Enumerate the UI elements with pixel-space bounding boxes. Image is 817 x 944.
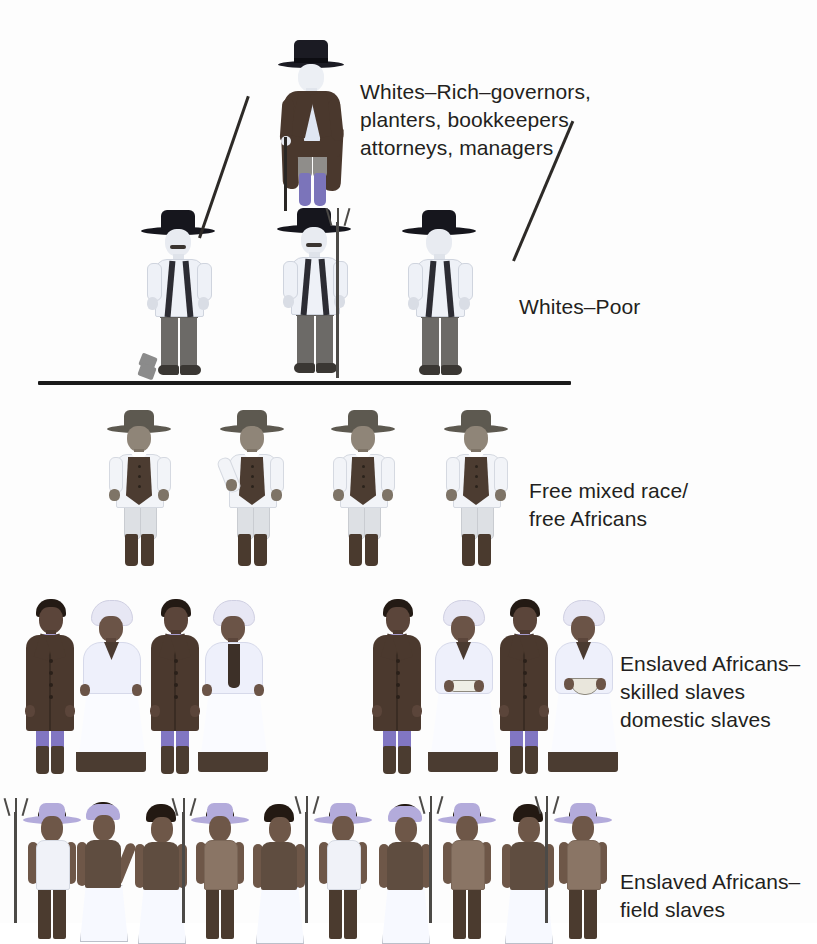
hand-left xyxy=(109,489,120,501)
sleeve-right xyxy=(197,263,212,301)
figure-poor-white-man xyxy=(400,207,478,375)
vest-button xyxy=(362,485,365,488)
boot-left xyxy=(462,534,475,566)
vest-button xyxy=(475,465,478,468)
vest-button xyxy=(138,465,141,468)
coat-button xyxy=(523,671,527,675)
skirt xyxy=(430,686,498,762)
hand-left xyxy=(333,489,344,501)
sleeve-left xyxy=(408,263,423,301)
sleeveless-shirt xyxy=(36,840,70,890)
trouser-leg-right xyxy=(221,885,234,939)
face xyxy=(395,817,417,843)
shoe-left xyxy=(158,365,179,375)
pitchfork-handle-icon xyxy=(182,812,185,923)
vest-button xyxy=(475,485,478,488)
hat-crown xyxy=(161,210,195,230)
figure-skilled-slave-woman xyxy=(194,600,272,775)
hoe-handle-icon xyxy=(198,96,250,239)
label-skilled-slaves: Enslaved Africans– skilled slaves domest… xyxy=(620,650,800,734)
hand-right xyxy=(459,297,470,310)
vest-button xyxy=(251,465,254,468)
vest-button xyxy=(475,475,478,478)
boot-left xyxy=(125,534,138,566)
boot-left xyxy=(383,746,396,774)
skirt xyxy=(256,887,304,944)
blouse xyxy=(387,842,423,890)
hand-left xyxy=(226,479,237,491)
figure-free-mixed-man xyxy=(440,407,512,567)
trouser-leg-right xyxy=(53,885,66,939)
sleeve-right xyxy=(270,457,284,493)
moustache xyxy=(306,243,322,247)
figure-field-slave-man xyxy=(437,800,497,940)
skirt xyxy=(382,887,430,944)
figure-field-slave-man xyxy=(190,800,250,940)
pitchfork-handle-icon xyxy=(429,812,432,923)
figure-field-slave-man xyxy=(553,800,613,940)
label-free-mixed-race: Free mixed race/ free Africans xyxy=(529,477,688,533)
boot-right xyxy=(478,534,491,566)
shoe-right xyxy=(180,365,201,375)
boot-right xyxy=(365,534,378,566)
shoe-left xyxy=(419,365,440,375)
skirt xyxy=(78,686,146,762)
blouse xyxy=(143,842,179,890)
sleeve-right xyxy=(458,263,473,301)
hand-left xyxy=(446,489,457,501)
figure-poor-white-man xyxy=(139,207,217,375)
coat-button xyxy=(49,659,53,663)
blouse xyxy=(261,842,297,890)
trouser-leg-left xyxy=(206,885,219,939)
hand-right xyxy=(198,297,209,310)
trouser-leg-right xyxy=(344,885,357,939)
bare-chest xyxy=(204,840,238,890)
coat-button xyxy=(174,683,178,687)
coat-button xyxy=(396,683,400,687)
figure-rich-white-man xyxy=(272,33,352,198)
hand-right xyxy=(254,684,264,696)
figure-field-slave-woman xyxy=(72,800,134,940)
shoe-right xyxy=(441,365,462,375)
trouser-leg-right xyxy=(584,885,597,939)
face xyxy=(41,816,63,842)
hand-right xyxy=(412,705,422,717)
trouser-leg-right xyxy=(441,311,458,369)
skirt-hem xyxy=(198,752,268,772)
coat-button xyxy=(396,695,400,699)
hand-left xyxy=(150,705,160,717)
tier-divider-line xyxy=(38,381,571,385)
face xyxy=(151,817,173,843)
trouser-leg-left xyxy=(569,885,582,939)
boot-right xyxy=(254,534,267,566)
boot-left xyxy=(299,173,311,206)
face xyxy=(209,816,231,842)
sleeve-right xyxy=(381,457,395,493)
hand-left xyxy=(147,297,158,310)
hand-left xyxy=(202,684,212,696)
hand-right xyxy=(132,684,142,696)
hand-left xyxy=(283,295,294,308)
pitchfork-handle-icon xyxy=(14,812,17,923)
label-rich-whites: Whites–Rich–governors, planters, bookkee… xyxy=(360,78,591,162)
figure-free-mixed-man xyxy=(327,407,399,567)
blouse xyxy=(510,842,546,890)
sleeve-right xyxy=(157,457,171,493)
face xyxy=(165,229,191,257)
hand-left xyxy=(80,684,90,696)
hand-left xyxy=(25,705,35,717)
figure-skilled-slave-woman xyxy=(72,600,150,775)
boot-right xyxy=(398,746,411,774)
hand-left xyxy=(499,705,509,717)
sleeve-left xyxy=(333,457,347,493)
coat-button xyxy=(174,695,178,699)
hand-right xyxy=(474,680,484,692)
moustache xyxy=(170,245,186,249)
pitchfork-handle-icon xyxy=(336,222,339,378)
sleeve-right xyxy=(494,457,508,493)
label-field-slaves: Enslaved Africans– field slaves xyxy=(620,868,800,924)
pitchfork-handle-icon xyxy=(305,812,308,923)
neck-scarf xyxy=(228,644,240,688)
face xyxy=(269,817,291,843)
